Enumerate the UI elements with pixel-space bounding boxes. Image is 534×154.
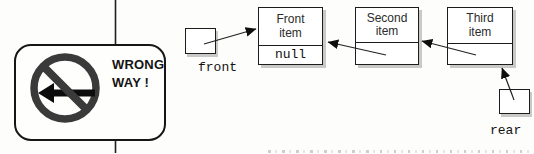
third-node-next-cell [448,43,512,64]
wrong-way-text-line1: WRONG [112,56,164,74]
clipped-caption-fragments [268,150,532,154]
front-node-data-cell: Front item [259,8,322,45]
front-node-next-cell: null [259,45,322,64]
front-node-title-line2: item [279,27,302,41]
second-node-title-line1: Second [367,12,408,26]
third-node-data-cell: Third item [448,8,512,43]
third-node-title-line1: Third [466,12,493,26]
rear-pointer-label: rear [490,123,521,138]
front-pointer-box [185,28,216,54]
rear-pointer-box [499,89,530,114]
no-entry-icon [16,46,112,139]
list-node-front: Front item null [258,7,323,65]
list-node-third: Third item [447,7,513,65]
front-pointer-label: front [198,60,237,75]
wrong-way-sign: WRONG WAY ! [14,44,166,141]
wrong-way-text: WRONG WAY ! [112,56,164,92]
second-node-next-cell [356,42,418,64]
wrong-way-text-line2: WAY ! [112,74,164,92]
third-node-title-line2: item [469,26,492,40]
second-node-data-cell: Second item [356,8,418,42]
list-node-second: Second item [355,7,419,65]
second-node-title-line2: item [376,25,399,39]
front-node-title-line1: Front [276,13,304,27]
